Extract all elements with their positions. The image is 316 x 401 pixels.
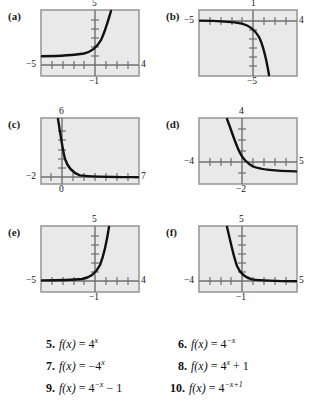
axis-label-e-top: 5	[92, 215, 97, 225]
exercise-equals: =	[79, 359, 86, 373]
exercise-function: f(x)	[191, 359, 208, 373]
exercise-expression: 4−x	[88, 381, 103, 395]
plot-svg-b	[198, 9, 298, 83]
exercise-expression: 4−x+1	[218, 381, 242, 395]
exercise-equals: =	[211, 359, 218, 373]
exercise-row: 5.f(x) = 4x 6.f(x) = 4−x	[0, 330, 316, 352]
graph-panel-e: (e) −5 4 5	[0, 216, 158, 324]
exercise-tail: − 1	[106, 381, 122, 395]
graph-panel-c: (c) −2 7 6	[0, 108, 158, 216]
exercise-expression: 4−x	[220, 337, 235, 351]
axis-label-d-top: 4	[239, 107, 244, 117]
exercise-expression: 4x	[220, 359, 230, 373]
axis-label-c-right: 7	[141, 172, 146, 182]
exercise-exponent: −x+1	[224, 380, 242, 389]
exercise-exponent: x	[94, 336, 98, 345]
exercise-row: 7.f(x) = −4x 8.f(x) = 4x + 1	[0, 352, 316, 374]
axis-label-a-bottom: −1	[89, 77, 99, 87]
axis-label-f-right: 5	[299, 276, 304, 286]
exercise-base: −4	[88, 359, 101, 373]
exercise-equals: =	[211, 337, 218, 351]
axis-label-b-bottom: −5	[247, 77, 257, 87]
exercise-expression: −4x	[88, 359, 104, 373]
panel-label-d: (d)	[166, 118, 179, 130]
plot-area-e: −5 4 5 −1	[40, 225, 140, 299]
axis-label-b-left: −5	[184, 16, 194, 26]
axis-label-c-left: −2	[26, 172, 36, 182]
axis-label-e-right: 4	[141, 276, 146, 286]
axis-label-a-top: 5	[92, 0, 97, 9]
axis-label-c-top: 6	[59, 107, 64, 117]
exercise-exponent: x	[101, 358, 105, 367]
exercise-row: 9.f(x) = 4−x − 1 10.f(x) = 4−x+1	[0, 374, 316, 396]
exercise-number: 6.	[178, 337, 187, 351]
exercise-exponent: −x	[226, 336, 235, 345]
plot-svg-f	[198, 225, 298, 299]
exercise-item-9: 9.f(x) = 4−x − 1	[46, 374, 122, 399]
exercise-exponent: x	[226, 358, 230, 367]
panel-label-b: (b)	[166, 10, 179, 22]
exercise-expression: 4x	[88, 337, 98, 351]
exercise-equals: =	[79, 337, 86, 351]
plot-svg-d	[198, 117, 298, 191]
axis-label-f-bottom: −1	[236, 293, 246, 303]
axis-label-d-bottom: −2	[236, 185, 246, 195]
graph-panel-b: (b) −5 4 1	[158, 0, 316, 108]
exercise-function: f(x)	[59, 381, 76, 395]
plot-svg-e	[40, 225, 140, 299]
panel-label-c: (c)	[8, 118, 20, 130]
figure-panel-grid: (a) −5	[0, 0, 316, 325]
exercise-number: 8.	[178, 359, 187, 373]
exercise-list: 5.f(x) = 4x 6.f(x) = 4−x 7.f(x) = −4x 8.…	[0, 330, 316, 401]
axis-label-e-left: −5	[26, 276, 36, 286]
plot-area-d: −4 5 4 −2	[198, 117, 298, 191]
axis-label-b-top: 1	[251, 0, 256, 9]
axis-label-b-right: 4	[299, 16, 304, 26]
exercise-function: f(x)	[59, 359, 76, 373]
axis-label-d-left: −4	[184, 157, 194, 167]
exercise-tail: + 1	[233, 359, 249, 373]
axis-label-f-left: −4	[184, 276, 194, 286]
exercise-item-10: 10.f(x) = 4−x+1	[170, 374, 243, 399]
exercise-function: f(x)	[59, 337, 76, 351]
exercise-number: 10.	[170, 381, 185, 395]
exercise-exponent: −x	[94, 380, 103, 389]
plot-area-b: −5 4 1 −5	[198, 9, 298, 83]
graph-panel-d: (d) −4 5 4	[158, 108, 316, 216]
axis-label-f-top: 5	[239, 215, 244, 225]
exercise-function: f(x)	[189, 381, 206, 395]
exercise-number: 5.	[46, 337, 55, 351]
panel-label-e: (e)	[8, 226, 20, 238]
plot-svg-a	[40, 9, 140, 83]
axis-label-d-right: 5	[299, 157, 304, 167]
axis-label-a-right: 4	[141, 60, 146, 70]
exercise-number: 7.	[46, 359, 55, 373]
axis-label-e-bottom: −1	[89, 293, 99, 303]
plot-area-f: −4 5 5 −1	[198, 225, 298, 299]
graph-panel-a: (a) −5	[0, 0, 158, 108]
exercise-number: 9.	[46, 381, 55, 395]
plot-area-a: −5 4 5 −1	[40, 9, 140, 83]
exercise-function: f(x)	[191, 337, 208, 351]
panel-label-f: (f)	[166, 226, 177, 238]
axis-label-c-bottom: 0	[59, 185, 64, 195]
panel-label-a: (a)	[8, 10, 21, 22]
graph-panel-f: (f) −4 5 5	[158, 216, 316, 324]
exercise-equals: =	[79, 381, 86, 395]
axis-label-a-left: −5	[26, 60, 36, 70]
plot-area-c: −2 7 6 0	[40, 117, 140, 191]
plot-svg-c	[40, 117, 140, 191]
exercise-equals: =	[209, 381, 216, 395]
